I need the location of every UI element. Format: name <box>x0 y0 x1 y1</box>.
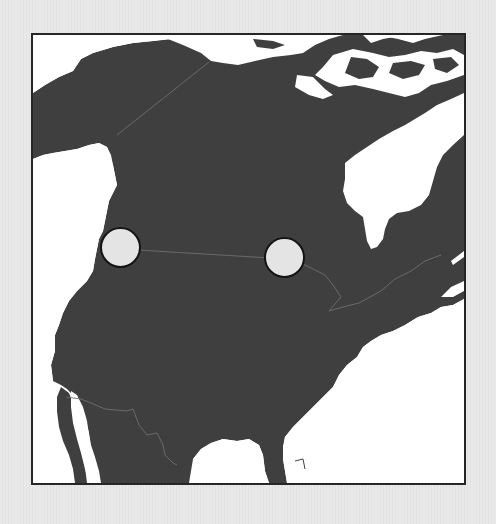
map-frame[interactable] <box>31 33 466 485</box>
north-america-map[interactable] <box>33 35 464 483</box>
marker-west[interactable] <box>100 227 141 268</box>
marker-east[interactable] <box>264 237 305 278</box>
